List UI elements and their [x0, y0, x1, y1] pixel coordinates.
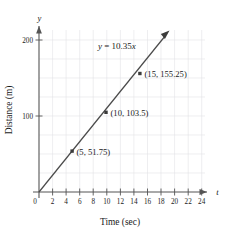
x-axis-tick-labels: 2 4 6 8 10 12 14 16 18 20 22 24	[51, 198, 206, 206]
x-axis-title: Time (sec)	[100, 217, 140, 228]
x-tick-label: 12	[117, 198, 125, 206]
x-tick-label: 18	[157, 198, 165, 206]
point-label-2: (10, 103.5)	[111, 108, 149, 118]
data-point-marker	[104, 111, 107, 114]
x-tick-label: 22	[185, 198, 193, 206]
x-tick-label: 6	[78, 198, 82, 206]
chart-figure: 2 4 6 8 10 12 14 16 18 20 22 24 100 200 …	[0, 0, 232, 234]
data-series-line	[39, 31, 170, 193]
y-tick-label: 100	[22, 113, 33, 121]
x-tick-label: 10	[103, 198, 111, 206]
y-axis-title: Distance (m)	[4, 86, 15, 135]
y-tick-label: 200	[22, 37, 33, 45]
x-tick-label: 16	[144, 198, 152, 206]
point-label-1: (5, 51.75)	[77, 147, 111, 157]
x-tick-label: 14	[130, 198, 138, 206]
point-label-3: (15, 155.25)	[145, 69, 187, 79]
x-axis-variable-label: t	[216, 187, 219, 197]
origin-label: 0	[33, 198, 37, 206]
x-tick-label: 2	[51, 198, 55, 206]
y-axis-variable-label: y	[37, 13, 42, 23]
data-point-marker	[138, 72, 141, 75]
y-axis-tick-labels: 100 200	[22, 37, 33, 121]
x-tick-label: 24	[198, 198, 206, 206]
equation-label: y = 10.35x	[97, 41, 136, 51]
x-tick-label: 20	[171, 198, 179, 206]
x-tick-label: 8	[91, 198, 95, 206]
x-tick-label: 4	[64, 198, 68, 206]
data-point-marker	[70, 149, 73, 152]
y-axis	[36, 26, 42, 198]
